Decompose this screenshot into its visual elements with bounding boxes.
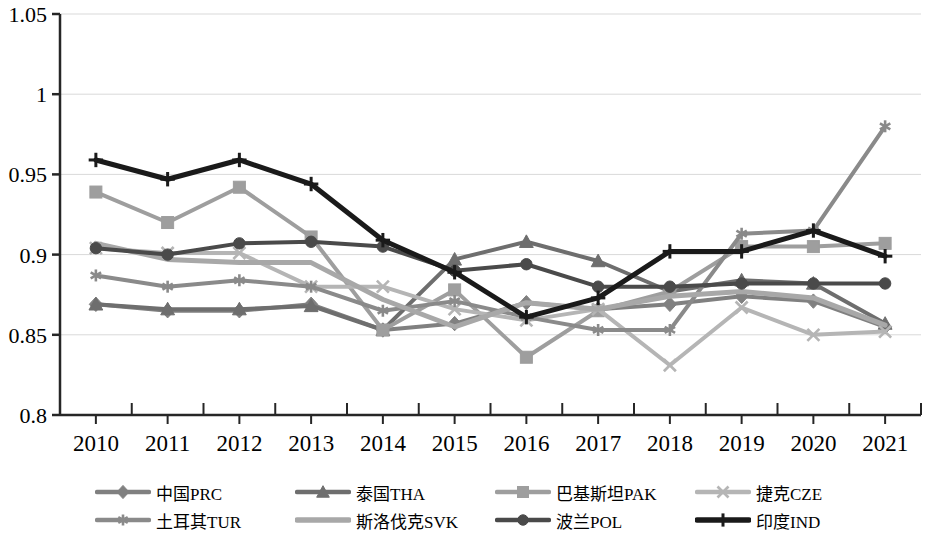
legend-item-pol[interactable]: 波兰POL	[495, 508, 695, 533]
legend-swatch-pol	[495, 512, 551, 528]
legend-item-tha[interactable]: 泰国THA	[295, 480, 495, 505]
x-tick-label: 2013	[288, 431, 334, 456]
x-tick-label: 2011	[145, 431, 190, 456]
chart-container: 0.80.850.90.9511.05201020112012201320142…	[0, 0, 927, 535]
legend-item-tur[interactable]: 土耳其TUR	[95, 508, 295, 533]
legend-swatch-tha	[295, 484, 351, 500]
series-4	[91, 120, 891, 336]
legend-item-ind[interactable]: 印度IND	[695, 508, 895, 533]
legend-label-tur: 土耳其TUR	[156, 508, 241, 533]
data-point-marker	[449, 284, 461, 296]
data-point-marker	[521, 259, 532, 270]
x-tick-label: 2010	[73, 431, 119, 456]
x-tick-label: 2018	[647, 431, 693, 456]
data-point-marker	[234, 238, 245, 249]
legend-label-svk: 斯洛伐克SVK	[356, 508, 458, 533]
x-tick-label: 2014	[360, 431, 407, 456]
legend-item-prc[interactable]: 中国PRC	[95, 480, 295, 505]
legend-swatch-ind	[695, 512, 751, 528]
y-tick-label: 0.85	[9, 323, 48, 348]
data-point-marker	[90, 186, 102, 198]
legend-item-pak[interactable]: 巴基斯坦PAK	[495, 480, 695, 505]
legend-label-pol: 波兰POL	[556, 508, 622, 533]
series-line	[96, 187, 885, 357]
data-point-marker	[162, 217, 174, 229]
data-point-marker	[117, 485, 129, 498]
y-tick-label: 0.8	[20, 403, 48, 428]
data-point-marker	[664, 281, 675, 292]
legend-item-svk[interactable]: 斯洛伐克SVK	[295, 508, 495, 533]
data-point-marker	[808, 278, 819, 289]
legend-label-prc: 中国PRC	[156, 480, 222, 505]
plot-area: 0.80.850.90.9511.05201020112012201320142…	[0, 0, 927, 470]
legend-label-pak: 巴基斯坦PAK	[556, 480, 656, 505]
data-point-marker	[377, 324, 389, 336]
data-point-marker	[162, 249, 173, 260]
data-point-marker	[518, 487, 529, 498]
y-tick-label: 1.05	[9, 2, 48, 27]
legend-label-cze: 捷克CZE	[756, 480, 822, 505]
legend-swatch-cze	[695, 484, 751, 500]
x-tick-label: 2012	[216, 431, 262, 456]
data-point-marker	[736, 278, 747, 289]
series-2	[90, 181, 891, 363]
data-point-marker	[879, 237, 891, 249]
x-tick-label: 2019	[719, 431, 765, 456]
x-tick-label: 2015	[432, 431, 478, 456]
chart-legend: 中国PRC 泰国THA 巴基斯坦PAK 捷克CZE 土耳其TUR 斯洛伐克SVK…	[95, 478, 895, 534]
legend-item-cze[interactable]: 捷克CZE	[695, 480, 895, 505]
y-tick-label: 0.9	[20, 243, 48, 268]
y-tick-label: 0.95	[9, 162, 48, 187]
data-point-marker	[879, 278, 890, 289]
x-tick-label: 2017	[575, 431, 621, 456]
line-chart: 0.80.850.90.9511.05201020112012201320142…	[0, 0, 927, 470]
x-tick-label: 2021	[862, 431, 908, 456]
data-point-marker	[233, 181, 245, 193]
data-point-marker	[592, 281, 603, 292]
x-tick-label: 2016	[503, 431, 549, 456]
data-point-marker	[90, 242, 101, 253]
legend-swatch-prc	[95, 484, 151, 500]
data-point-marker	[305, 236, 316, 247]
data-point-marker	[807, 241, 819, 253]
legend-label-ind: 印度IND	[756, 508, 820, 533]
y-tick-label: 1	[36, 82, 47, 107]
legend-swatch-svk	[295, 512, 351, 528]
data-point-marker	[518, 515, 528, 525]
legend-swatch-tur	[95, 512, 151, 528]
data-point-marker	[520, 351, 532, 363]
legend-label-tha: 泰国THA	[356, 480, 425, 505]
legend-swatch-pak	[495, 484, 551, 500]
x-tick-label: 2020	[790, 431, 836, 456]
